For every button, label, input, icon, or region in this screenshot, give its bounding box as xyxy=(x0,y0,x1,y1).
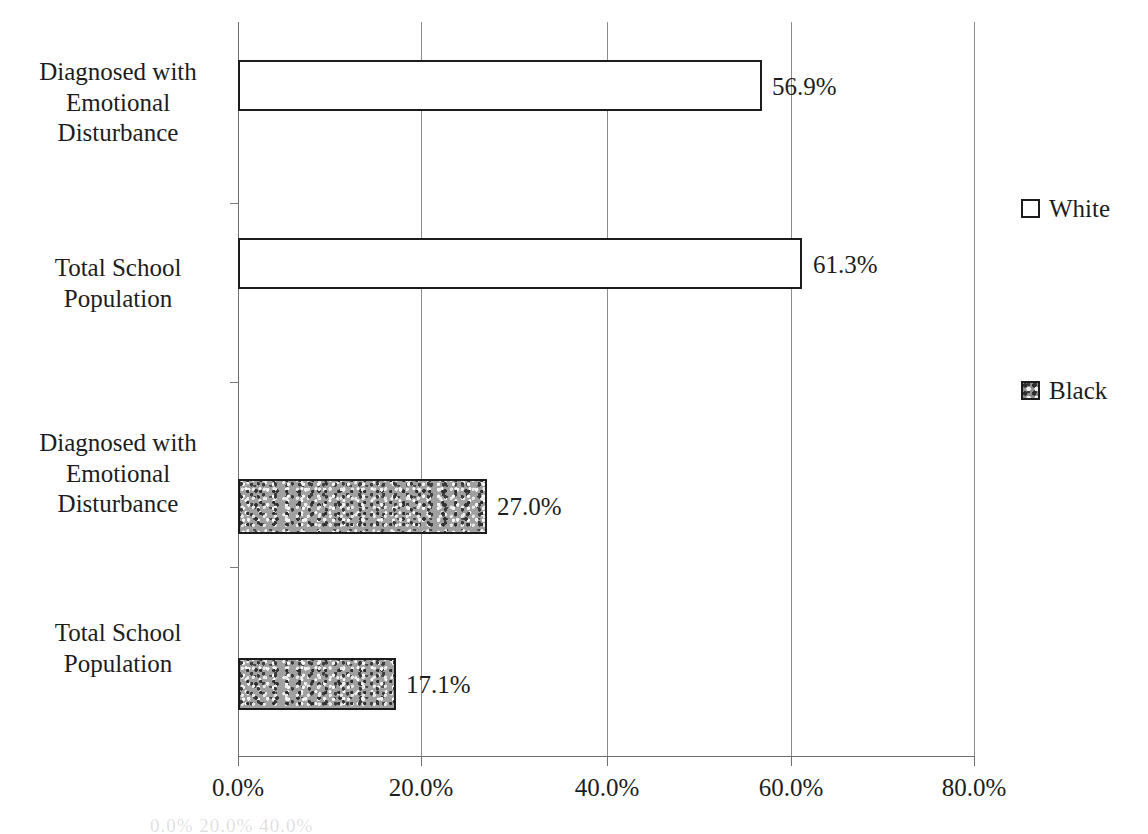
legend-label-black: Black xyxy=(1049,378,1107,403)
gridline-20 xyxy=(421,22,422,757)
x-tick-label-0: 0.0% xyxy=(178,775,298,800)
bar-chart: Diagnosed with Emotional Disturbance Tot… xyxy=(0,0,1148,834)
tick-mark-category-1 xyxy=(230,203,239,204)
value-label-black-emotional-disturbance: 27.0% xyxy=(497,494,562,519)
bar-black-emotional-disturbance xyxy=(238,479,487,534)
category-label-black-ed: Diagnosed with Emotional Disturbance xyxy=(18,428,218,520)
legend-label-white: White xyxy=(1049,196,1110,221)
category-label-white-total: Total School Population xyxy=(18,253,218,314)
x-tick-label-40: 40.0% xyxy=(547,775,667,800)
scan-bleed-artifact: 0.0% 20.0% 40.0% xyxy=(150,816,1148,834)
legend-item-white: White xyxy=(1021,196,1110,221)
bar-white-total-school-population xyxy=(238,238,802,289)
y-axis-line xyxy=(238,22,239,757)
legend-item-black: Black xyxy=(1021,378,1107,403)
tick-mark-40 xyxy=(607,757,608,766)
gridline-80 xyxy=(974,22,975,757)
value-label-white-total-school-population: 61.3% xyxy=(813,252,878,277)
legend-swatch-white-icon xyxy=(1021,199,1040,218)
plot-area: 56.9% 61.3% 27.0% 17.1% xyxy=(238,22,975,757)
value-label-white-emotional-disturbance: 56.9% xyxy=(772,74,837,99)
x-tick-label-80: 80.0% xyxy=(914,775,1034,800)
gridline-40 xyxy=(607,22,608,757)
value-label-black-total-school-population: 17.1% xyxy=(406,672,471,697)
tick-mark-60 xyxy=(791,757,792,766)
tick-mark-20 xyxy=(421,757,422,766)
x-tick-label-20: 20.0% xyxy=(361,775,481,800)
tick-mark-category-2 xyxy=(230,382,239,383)
tick-mark-category-3 xyxy=(230,567,239,568)
legend-swatch-black-icon xyxy=(1021,381,1040,400)
category-label-white-ed: Diagnosed with Emotional Disturbance xyxy=(18,57,218,149)
tick-mark-0 xyxy=(238,757,239,766)
bar-black-total-school-population xyxy=(238,658,396,710)
tick-mark-80 xyxy=(974,757,975,766)
category-label-black-total: Total School Population xyxy=(18,618,218,679)
gridline-60 xyxy=(791,22,792,757)
x-tick-label-60: 60.0% xyxy=(731,775,851,800)
bar-white-emotional-disturbance xyxy=(238,60,762,111)
